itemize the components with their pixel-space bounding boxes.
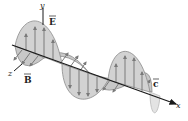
- y-axis-label: y: [39, 1, 45, 10]
- magnetic-field-label: B: [24, 75, 32, 85]
- x-axis-label: x: [176, 101, 181, 110]
- em-wave-diagram: y E z B c x: [0, 0, 188, 121]
- velocity-label: c: [153, 79, 159, 89]
- z-axis-label: z: [7, 69, 13, 78]
- z-axis: [14, 64, 22, 71]
- electric-field-label: E: [49, 17, 56, 27]
